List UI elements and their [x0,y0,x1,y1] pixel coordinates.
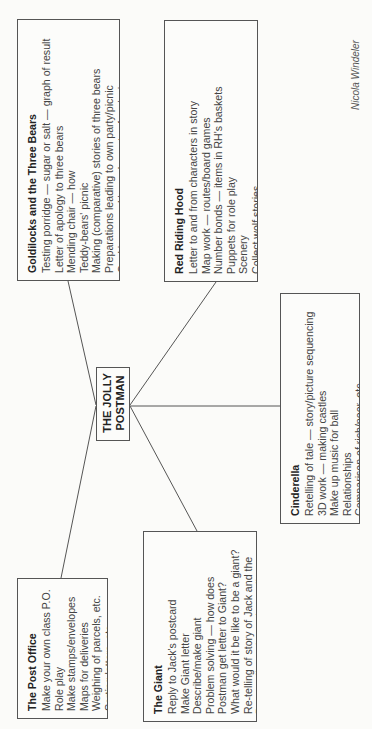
central-topic-line2: POSTMAN [114,376,127,431]
topic-item: Mending chair — how [65,24,78,273]
topic-item: Testing porridge — sugar or salt — graph… [40,24,53,273]
topic-item: Make Giant letter [179,536,192,714]
link-red-riding-hood [130,282,216,405]
topic-item: Relationships [341,298,354,516]
topic-item: Make your own class P.O. [40,583,53,711]
topic-item: Problem solving — how does [204,536,217,714]
topic-item: Map work — routes/board games [200,25,213,274]
central-topic-line1: THE JOLLY [101,373,114,433]
topic-item: Comparison of rich/poor, etc. [353,298,360,516]
central-topic-box: THE JOLLY POSTMAN [96,367,130,441]
topic-item: Number bonds — items in RH's baskets [212,25,225,274]
topic-item: Role play [53,583,66,711]
link-goldilocks [68,281,96,405]
link-post-office [61,406,96,578]
topic-box-goldilocks: Goldilocks and the Three Bears Testing p… [17,19,120,281]
topic-item: Re-telling of story of Jack and the [242,536,255,714]
topic-title: Goldilocks and the Three Bears [26,114,38,273]
topic-item: Preparations leading to own party/picnic [103,24,116,273]
topic-item: Teddy-bears' picnic [78,24,91,273]
topic-title: The Post Office [26,633,38,711]
topic-item: Describe/make giant [191,536,204,714]
topic-item: Letter to and from characters in story [187,25,200,274]
topic-box-red-riding-hood: Red Riding Hood Letter to and from chara… [164,20,258,282]
topic-item: Make up music for ball [328,298,341,516]
topic-item: Weighing of parcels, etc. [90,583,103,711]
topic-item: 3D work — making castles [316,298,329,516]
topic-box-post-office: The Post Office Make your own class P.O.… [17,578,108,719]
topic-item: Puppets for role play [225,25,238,274]
topic-item: Maps for deliveries [78,583,91,711]
topic-title: The Giant [152,665,164,714]
topic-item: Beanstalk — alternative endings [254,536,257,714]
link-giant [130,406,197,531]
topic-item: Postman get letter to Giant? [216,536,229,714]
topic-title: Cinderella [289,465,301,516]
topic-item: Scenery [237,25,250,274]
topic-item: What would it be like to be a giant? [229,536,242,714]
topic-item: Reply to Jack's postcard [166,536,179,714]
topic-box-cinderella: Cinderella Retelling of tale — story/pic… [280,293,360,524]
topic-item: Making (comparative) stories of three be… [90,24,103,273]
topic-item: Cooking — making cakes, etc., for picnic [116,24,120,273]
author-signature: Nicola Windeler [350,40,361,110]
topic-item: Collect wolf stories [250,25,258,274]
topic-item: Letter of apology to three bears [53,24,66,273]
topic-box-giant: The Giant Reply to Jack's postcard Make … [143,531,257,722]
topic-item: Make stamps/envelopes [65,583,78,711]
topic-title: Red Riding Hood [173,188,185,274]
topic-item: Retelling of tale — story/picture sequen… [303,298,316,516]
topic-item: Sorting letters, etc. [103,583,108,711]
